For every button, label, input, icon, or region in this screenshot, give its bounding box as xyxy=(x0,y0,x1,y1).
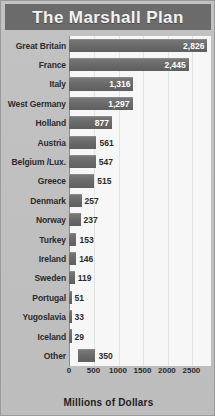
bar-category-label: Sweden xyxy=(6,273,66,283)
bar xyxy=(69,291,72,304)
bar xyxy=(69,174,94,187)
bar-category-label: Belgium /Lux. xyxy=(6,157,66,167)
bar-track: 146 xyxy=(69,249,211,268)
bar-track: 350 xyxy=(69,346,211,365)
bar-row: Norway237 xyxy=(6,211,211,230)
bar-category-label: Turkey xyxy=(6,235,66,245)
bar-track: 2,826 xyxy=(69,36,211,55)
bar-value-label: 1,297 xyxy=(108,100,129,109)
bar-row: Italy1,316 xyxy=(6,75,211,94)
bar-value-label: 257 xyxy=(85,197,99,206)
bar xyxy=(69,213,81,226)
bar-rows: Great Britain2,826France2,445Italy1,316W… xyxy=(6,36,211,366)
bar-track: 33 xyxy=(69,307,211,326)
bar-value-label: 33 xyxy=(75,313,84,322)
bar-row: Belgium /Lux.547 xyxy=(6,152,211,171)
bar-category-label: Great Britain xyxy=(6,41,66,51)
bar xyxy=(69,310,72,323)
bar-value-label: 153 xyxy=(79,235,93,244)
bar-category-label: Other xyxy=(6,351,66,361)
bar-category-label: Greece xyxy=(6,176,66,186)
bar-row: Austria561 xyxy=(6,133,211,152)
bar-track: 877 xyxy=(69,114,211,133)
x-axis-tick-label: 0 xyxy=(67,367,71,375)
bar-value-label: 237 xyxy=(84,216,98,225)
plot-frame: Great Britain2,826France2,445Italy1,316W… xyxy=(6,34,211,378)
bar-value-label: 877 xyxy=(95,119,109,128)
bar-track: 119 xyxy=(69,269,211,288)
bar xyxy=(69,329,72,342)
x-axis: 05001000150020002500 xyxy=(69,367,211,379)
bar-row: Sweden119 xyxy=(6,269,211,288)
x-axis-tick-label: 1500 xyxy=(134,367,152,375)
x-axis-tick-label: 2500 xyxy=(183,367,201,375)
bar xyxy=(69,155,96,168)
bar-value-label: 1,316 xyxy=(109,80,130,89)
bar-value-label: 146 xyxy=(79,255,93,264)
x-axis-tick-label: 2000 xyxy=(158,367,176,375)
bar-track: 547 xyxy=(69,152,211,171)
x-axis-tick-label: 500 xyxy=(87,367,100,375)
bar-row: Other350 xyxy=(6,346,211,365)
bar-category-label: Italy xyxy=(6,79,66,89)
bar-track: 561 xyxy=(69,133,211,152)
bar-row: Ireland146 xyxy=(6,249,211,268)
bar xyxy=(69,233,76,246)
chart-figure: The Marshall Plan Great Britain2,826Fran… xyxy=(0,0,215,416)
bar-value-label: 51 xyxy=(75,294,84,303)
bar-value-label: 515 xyxy=(97,177,111,186)
bar-category-label: West Germany xyxy=(6,99,66,109)
bar-track: 1,316 xyxy=(69,75,211,94)
bar-row: Great Britain2,826 xyxy=(6,36,211,55)
bar-value-label: 2,826 xyxy=(183,41,204,50)
bar-row: Holland877 xyxy=(6,114,211,133)
bar xyxy=(69,271,75,284)
bar-value-label: 119 xyxy=(78,274,92,283)
bar xyxy=(69,252,76,265)
bar-row: Denmark257 xyxy=(6,191,211,210)
x-axis-title: Millions of Dollars xyxy=(6,397,211,408)
bar-value-label: 2,445 xyxy=(164,61,185,70)
bar-track: 237 xyxy=(69,211,211,230)
bar-row: Yugoslavia33 xyxy=(6,307,211,326)
bar-row: Portugal51 xyxy=(6,288,211,307)
bar-category-label: Yugoslavia xyxy=(6,312,66,322)
bar-value-label: 350 xyxy=(98,352,112,361)
bar-value-label: 29 xyxy=(75,332,84,341)
bar xyxy=(78,349,95,362)
bar-track: 51 xyxy=(69,288,211,307)
bar-category-label: France xyxy=(6,60,66,70)
bar-category-label: Holland xyxy=(6,118,66,128)
x-axis-tick-label: 1000 xyxy=(109,367,127,375)
bar-value-label: 561 xyxy=(99,138,113,147)
bar-category-label: Denmark xyxy=(6,196,66,206)
bar-category-label: Iceland xyxy=(6,332,66,342)
bar-category-label: Norway xyxy=(6,215,66,225)
bar-track: 515 xyxy=(69,172,211,191)
bar-value-label: 547 xyxy=(99,158,113,167)
bar-category-label: Ireland xyxy=(6,254,66,264)
bar-row: Iceland29 xyxy=(6,327,211,346)
chart-title: The Marshall Plan xyxy=(32,9,183,26)
bar-row: West Germany1,297 xyxy=(6,94,211,113)
bar-row: France2,445 xyxy=(6,55,211,74)
bar-track: 153 xyxy=(69,230,211,249)
bar-category-label: Portugal xyxy=(6,293,66,303)
bar-category-label: Austria xyxy=(6,138,66,148)
bar-track: 257 xyxy=(69,191,211,210)
chart-title-band: The Marshall Plan xyxy=(5,4,211,30)
bar-row: Turkey153 xyxy=(6,230,211,249)
bar-track: 1,297 xyxy=(69,94,211,113)
bar-row: Greece515 xyxy=(6,172,211,191)
bar-track: 29 xyxy=(69,327,211,346)
bar xyxy=(69,194,82,207)
bar xyxy=(69,136,96,149)
bar-track: 2,445 xyxy=(69,55,211,74)
